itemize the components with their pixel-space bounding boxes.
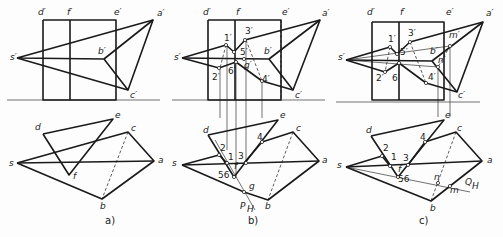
point-label: 1′ — [224, 33, 232, 43]
front-view-c: d′f′e′a′s′1′3′5′m′b′n′2′6′4′c′ — [336, 7, 494, 117]
point-label: 1′ — [388, 34, 396, 44]
point-label: 56 — [218, 170, 230, 180]
panel-caption: b) — [248, 215, 258, 226]
point-label: c — [296, 123, 301, 133]
edge-line — [346, 161, 482, 167]
point-label: b′ — [430, 46, 438, 56]
point-label: e′ — [114, 7, 122, 17]
point-label: 3 — [403, 153, 409, 163]
point-label: f — [234, 161, 239, 171]
point-label: 5′ — [400, 47, 408, 57]
top-view-b: ed4c213saf56gbPH — [172, 110, 328, 214]
point-label: c′ — [130, 90, 137, 100]
point-label: a — [322, 155, 328, 165]
point-label: s — [9, 158, 14, 168]
point-label: m — [450, 185, 459, 195]
point-label: 3 — [238, 151, 244, 161]
point-label: a — [158, 155, 164, 165]
intersection-point — [243, 38, 246, 41]
point-label: a′ — [157, 8, 165, 18]
point-label: H — [247, 204, 254, 214]
point-label: s — [172, 158, 177, 168]
point-label: a′ — [486, 8, 494, 18]
panel-c: d′f′e′a′s′1′3′5′m′b′n′2′6′4′c′ed4c213saf… — [336, 7, 494, 226]
edge-line — [17, 58, 128, 90]
point-label: d′ — [367, 7, 375, 17]
point-label: d′ — [38, 7, 46, 17]
intersection-point — [242, 190, 245, 193]
point-label: d′ — [203, 7, 211, 17]
point-label: 1 — [391, 152, 397, 162]
edge-line — [182, 161, 319, 165]
point-label: s — [337, 160, 342, 170]
point-label: e′ — [446, 7, 454, 17]
intersection-point — [217, 153, 220, 156]
point-label: 5′ — [240, 47, 248, 57]
edge-line — [17, 20, 153, 90]
hidden-line — [385, 47, 390, 72]
front-view-a: d′f′e′a′s′b′c′ — [7, 7, 165, 100]
point-label: b′ — [264, 46, 272, 56]
point-label: e — [115, 110, 121, 120]
top-view-a: edcsafb — [9, 110, 164, 211]
point-label: f — [73, 171, 78, 181]
edge-line — [371, 120, 444, 177]
point-label: c — [457, 123, 462, 133]
point-label: 4′ — [262, 74, 270, 84]
point-label: P — [240, 201, 246, 211]
top-view-c: ed4c213saf56nmQHb — [337, 110, 493, 213]
point-label: 2 — [383, 143, 389, 153]
intersection-point — [436, 65, 439, 68]
panel-a: d′f′e′a′s′b′c′edcsafba) — [7, 7, 165, 226]
panel-caption: a) — [105, 215, 115, 226]
projection-diagram: d′f′e′a′s′b′c′edcsafba)d′f′e′a′s′1′3′5′b… — [0, 0, 503, 237]
intersection-point — [408, 40, 411, 43]
intersection-point — [388, 45, 391, 48]
point-label: a — [487, 155, 493, 165]
intersection-point — [232, 50, 235, 53]
point-label: b — [430, 203, 436, 213]
point-label: n — [434, 172, 440, 182]
point-label: b — [100, 201, 106, 211]
point-label: 56 — [398, 174, 410, 184]
point-label: c — [131, 123, 136, 133]
point-label: 3′ — [245, 26, 253, 36]
point-label: 1 — [228, 152, 234, 162]
point-label: 2′ — [376, 73, 384, 83]
intersection-point — [448, 44, 451, 47]
point-label: d — [366, 125, 372, 135]
point-label: H — [472, 181, 479, 191]
point-label: e — [445, 110, 451, 120]
point-label: s′ — [10, 52, 17, 62]
intersection-point — [232, 175, 235, 178]
point-label: d — [35, 122, 41, 132]
point-label: 2 — [220, 143, 226, 153]
point-label: f′ — [236, 7, 241, 17]
point-label: 3′ — [408, 28, 416, 38]
point-label: n′ — [438, 55, 446, 65]
point-label: d — [203, 125, 209, 135]
point-label: 4 — [257, 132, 263, 142]
point-label: a′ — [322, 8, 330, 18]
point-label: b′ — [98, 46, 106, 56]
point-label: 4 — [420, 132, 426, 142]
intersection-point — [406, 163, 409, 166]
point-label: c′ — [295, 90, 302, 100]
intersection-point — [224, 43, 227, 46]
panel-caption: c) — [419, 215, 428, 226]
intersection-point — [234, 60, 237, 63]
intersection-point — [397, 61, 400, 64]
intersection-point — [244, 161, 247, 164]
point-label: 6′ — [392, 73, 400, 83]
edge-line — [208, 120, 278, 177]
point-label: 6′ — [228, 66, 236, 76]
hidden-line — [220, 45, 226, 68]
panel-b: d′f′e′a′s′1′3′5′b′g′2′6′4′c′ed4c213saf56… — [172, 7, 330, 226]
point-label: c′ — [458, 90, 465, 100]
point-label: 2′ — [212, 72, 220, 82]
point-label: e — [280, 110, 286, 120]
intersection-point — [217, 66, 220, 69]
diagram-canvas: d′f′e′a′s′b′c′edcsafba)d′f′e′a′s′1′3′5′b… — [0, 0, 503, 237]
intersection-point — [380, 154, 383, 157]
intersection-point — [395, 52, 398, 55]
